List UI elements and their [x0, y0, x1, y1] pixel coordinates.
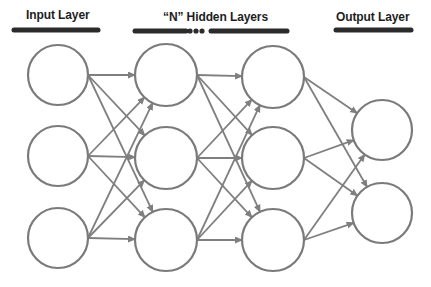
connection-arrow — [304, 77, 357, 113]
hidden-1-neuron-3 — [135, 209, 197, 271]
input-neuron-3 — [28, 208, 88, 268]
neural-network-diagram — [0, 0, 431, 287]
connection-arrow — [197, 75, 242, 76]
input-neuron-2 — [28, 126, 88, 186]
hidden-1-neuron-2 — [135, 127, 197, 189]
input-neuron-1 — [28, 45, 88, 105]
hidden-2-neuron-1 — [242, 46, 304, 108]
hidden-1-neuron-1 — [135, 44, 197, 106]
output-neuron-1 — [352, 100, 412, 160]
ellipsis-dot — [193, 28, 198, 33]
connections — [88, 75, 367, 240]
ellipsis-dot — [187, 28, 192, 33]
output-neuron-2 — [352, 183, 412, 243]
hidden-2-neuron-3 — [242, 209, 304, 271]
connection-arrow — [88, 238, 135, 239]
connection-arrow — [304, 223, 354, 240]
heading-underlines — [14, 28, 411, 33]
ellipsis-dot — [199, 28, 204, 33]
hidden-2-neuron-2 — [242, 127, 304, 189]
